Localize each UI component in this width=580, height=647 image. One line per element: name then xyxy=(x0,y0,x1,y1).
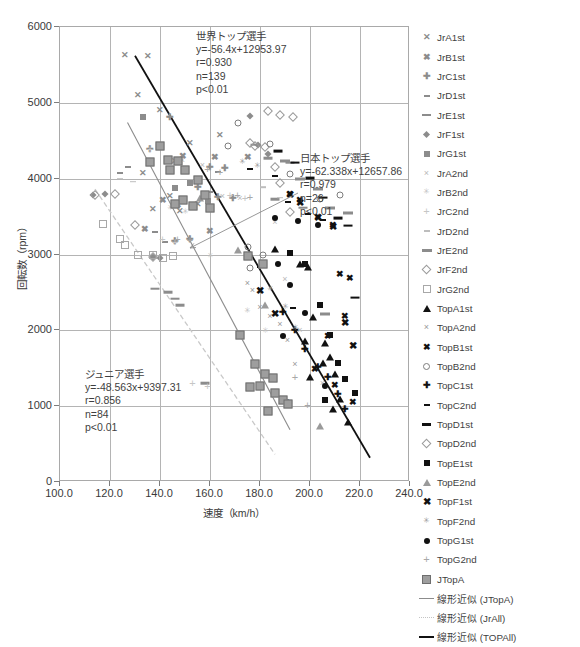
legend-marker: ✖ xyxy=(418,492,435,511)
legend-label: JrD2nd xyxy=(435,226,469,237)
legend-item[interactable]: JTopA xyxy=(418,570,578,589)
legend-item[interactable]: ✖JrB1st xyxy=(418,47,578,66)
legend-item[interactable]: ✚JrC1st xyxy=(418,67,578,86)
legend: ✕JrA1st✖JrB1st✚JrC1stJrD1stJrE1stJrF1stJ… xyxy=(418,28,578,647)
legend-item[interactable]: TopC2nd xyxy=(418,396,578,415)
legend-item[interactable]: +TopG2nd xyxy=(418,550,578,569)
legend-marker: × xyxy=(418,318,435,337)
marker-line-dotted xyxy=(419,617,434,618)
legend-item[interactable]: JrG2nd xyxy=(418,279,578,298)
legend-marker xyxy=(418,105,435,124)
marker-dash-bold-gray xyxy=(422,249,432,252)
legend-item[interactable]: JrE2nd xyxy=(418,241,578,260)
legend-marker xyxy=(418,473,435,492)
legend-item[interactable]: JrD2nd xyxy=(418,221,578,240)
legend-label: JrD1st xyxy=(435,90,465,101)
marker-x-bold2-gray: ✖ xyxy=(423,53,431,62)
marker-plus-black: ✚ xyxy=(423,381,431,390)
legend-marker xyxy=(418,125,435,144)
legend-label: TopB2nd xyxy=(435,361,476,372)
legend-marker: ✳ xyxy=(418,183,435,202)
legend-item[interactable]: TopG1st xyxy=(418,531,578,550)
legend-item[interactable]: ✚TopC1st xyxy=(418,376,578,395)
legend-marker xyxy=(418,279,435,298)
legend-marker: ✚ xyxy=(418,67,435,86)
legend-item[interactable]: JrF2nd xyxy=(418,260,578,279)
marker-dash-black xyxy=(422,423,431,426)
marker-sq-jtop xyxy=(422,575,431,584)
legend-marker: × xyxy=(418,163,435,182)
legend-item[interactable]: 線形近似 (JTopA) xyxy=(418,589,578,608)
marker-line-black xyxy=(419,636,434,638)
legend-item[interactable]: ×JrA2nd xyxy=(418,163,578,182)
legend-item[interactable]: ×TopA2nd xyxy=(418,318,578,337)
legend-label: 線形近似 (TOPAll) xyxy=(435,630,516,644)
legend-item[interactable]: ✳JrB2nd xyxy=(418,183,578,202)
legend-label: JrC2nd xyxy=(435,206,469,217)
legend-marker xyxy=(418,531,435,550)
legend-label: JrG2nd xyxy=(435,284,469,295)
legend-marker xyxy=(418,628,435,647)
legend-label: TopA1st xyxy=(435,303,472,314)
marker-dash-light xyxy=(424,230,430,232)
legend-item[interactable]: JrG1st xyxy=(418,144,578,163)
legend-marker xyxy=(418,241,435,260)
legend-item[interactable]: JrF1st xyxy=(418,125,578,144)
legend-label: JrA1st xyxy=(435,32,465,43)
marker-plus-bold-gray: ✚ xyxy=(423,72,431,81)
legend-label: 線形近似 (JTopA) xyxy=(435,592,513,606)
legend-label: JrG1st xyxy=(435,148,466,159)
marker-line-gray xyxy=(419,598,434,599)
legend-item[interactable]: JrD1st xyxy=(418,86,578,105)
marker-x-bold-gray: ✕ xyxy=(423,33,431,42)
marker-sq-black xyxy=(424,460,430,466)
legend-marker xyxy=(418,357,435,376)
legend-marker: ✕ xyxy=(418,28,435,47)
marker-diamond-open xyxy=(422,265,432,275)
legend-item[interactable]: TopE2nd xyxy=(418,473,578,492)
marker-circ-black xyxy=(424,538,430,544)
legend-item[interactable]: 線形近似 (TOPAll) xyxy=(418,628,578,647)
legend-label: TopF1st xyxy=(435,496,472,507)
legend-marker xyxy=(418,86,435,105)
marker-plus-gray: + xyxy=(423,554,429,565)
legend-item[interactable]: 線形近似 (JrAll) xyxy=(418,608,578,627)
legend-label: TopG2nd xyxy=(435,554,477,565)
marker-x-bold-black: ✖ xyxy=(423,343,431,352)
marker-x-heavy-black: ✖ xyxy=(423,497,431,507)
legend-item[interactable]: TopD1st xyxy=(418,415,578,434)
legend-item[interactable]: ✖TopF1st xyxy=(418,492,578,511)
legend-item[interactable]: +JrC2nd xyxy=(418,202,578,221)
legend-item[interactable]: TopA1st xyxy=(418,299,578,318)
legend-item[interactable]: ✕JrA1st xyxy=(418,28,578,47)
legend-marker xyxy=(418,570,435,589)
legend-item[interactable]: ✖TopB1st xyxy=(418,338,578,357)
legend-label: JTopA xyxy=(435,574,464,585)
marker-x-mid-gray: ✳ xyxy=(423,517,430,525)
legend-marker xyxy=(418,608,435,627)
legend-label: TopD2nd xyxy=(435,438,476,449)
legend-label: TopA2nd xyxy=(435,322,476,333)
legend-item[interactable]: JrE1st xyxy=(418,105,578,124)
marker-tri-black xyxy=(423,305,431,312)
marker-sq-open xyxy=(423,285,431,293)
legend-item[interactable]: ✳TopF2nd xyxy=(418,512,578,531)
legend-marker xyxy=(418,454,435,473)
legend-marker xyxy=(418,396,435,415)
legend-label: JrB1st xyxy=(435,52,465,63)
legend-marker: + xyxy=(418,202,435,221)
legend-item[interactable]: TopB2nd xyxy=(418,357,578,376)
legend-marker xyxy=(418,260,435,279)
legend-item[interactable]: TopE1st xyxy=(418,454,578,473)
legend-label: TopF2nd xyxy=(435,516,475,527)
legend-label: JrE1st xyxy=(435,110,465,121)
legend-label: TopD1st xyxy=(435,419,473,430)
legend-item[interactable]: TopD2nd xyxy=(418,434,578,453)
legend-label: TopG1st xyxy=(435,535,474,546)
legend-label: TopC2nd xyxy=(435,400,476,411)
legend-marker xyxy=(418,221,435,240)
legend-label: TopE1st xyxy=(435,458,472,469)
legend-label: JrE2nd xyxy=(435,245,468,256)
marker-x-thin-gray: × xyxy=(424,323,429,332)
